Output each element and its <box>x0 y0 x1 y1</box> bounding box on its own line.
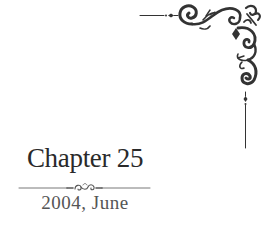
chapter-title: Chapter 25 <box>0 143 170 174</box>
chapter-date: 2004, June <box>0 192 170 214</box>
